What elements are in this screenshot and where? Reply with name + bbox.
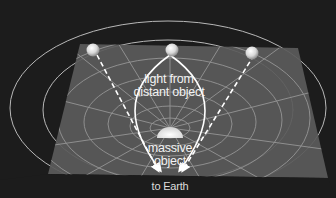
- mass-label-line2: object: [140, 155, 200, 168]
- light-label: light from distant object: [133, 73, 205, 99]
- distant-object-image-right-icon: [246, 47, 259, 60]
- light-label-line2: distant object: [133, 86, 205, 99]
- earth-label: to Earth: [130, 180, 210, 193]
- lensing-diagram: [0, 0, 336, 198]
- distant-object-image-left-icon: [87, 44, 100, 57]
- distant-object-icon: [166, 44, 179, 57]
- massive-object-label: massive object: [140, 142, 200, 168]
